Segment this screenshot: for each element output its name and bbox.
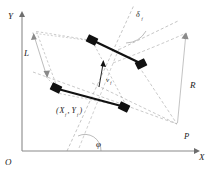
steer-angle-label: δ f [136,10,144,21]
wheel-front-left [86,34,99,46]
wheelbase-label: L [23,48,29,58]
front-wheel-to-icr-line [136,62,177,124]
steering-direction-line [114,21,178,52]
axis-label-x: X [198,152,205,162]
front-axle [94,41,140,63]
radius-line [178,33,187,123]
wheel-rear-left [50,82,63,94]
icr-point-label: P [183,131,189,141]
axis-label-y: Y [8,11,14,21]
figure-container: Y X O L R P φ v f δ f ( X f , Y f ) [0,0,213,171]
wheelbase-arrow-bottom [44,71,51,78]
rear-axle-extension-line [33,72,177,124]
vehicle-axles [58,41,140,107]
steer-angle-label-main: δ [136,10,140,19]
wheelbase-ext-top [32,33,93,41]
radius-label: R [189,80,196,90]
velocity-label-sub: f [110,80,112,85]
steer-angle-arc [126,31,146,43]
wheel-front-right [135,58,148,70]
wheel-rear-right [118,101,131,113]
y-axis-arrowhead [19,11,25,17]
axis-label-origin: O [5,157,12,167]
velocity-arrowhead [101,60,107,67]
position-label-comma: , [68,106,70,115]
wheelbase-arrow-top [31,33,37,40]
velocity-arrow-line [99,64,103,87]
position-label: ( X f , Y f ) [56,106,83,117]
turning-arc [113,34,184,63]
heading-angle-label: φ [96,139,101,149]
rear-axle [58,89,125,107]
position-label-close: ) [79,106,83,115]
rear-center-to-icr-line [92,83,177,124]
steer-angle-label-sub: f [142,16,144,21]
construction-lines [31,5,189,151]
wheelbase-dimension-line [34,34,48,77]
vehicle-model-diagram: Y X O L R P φ v f δ f ( X f , Y f ) [0,0,213,171]
